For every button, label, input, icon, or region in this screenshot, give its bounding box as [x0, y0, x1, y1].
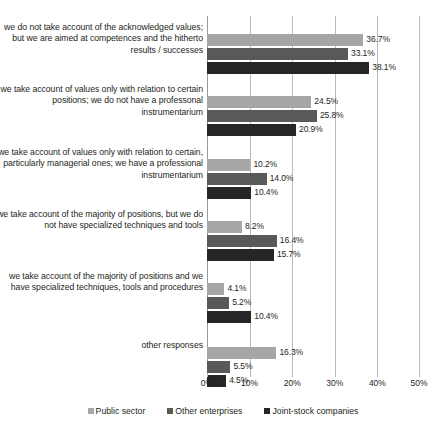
bar-row: 10.2% [207, 159, 420, 171]
bar-value-label: 38.1% [372, 61, 396, 73]
x-tick [335, 373, 336, 377]
legend-label: Public sector [96, 406, 146, 416]
x-tick-label: 40% [369, 378, 386, 388]
x-tick-label: 10% [241, 378, 258, 388]
bar-row: 8.2% [207, 221, 420, 233]
bar-value-label: 33.1% [351, 47, 375, 59]
x-axis: 0%10%20%30%40%50% [207, 373, 420, 393]
bar-value-label: 10.2% [253, 158, 277, 170]
bar[interactable] [207, 48, 348, 60]
bar-group: 4.1%5.2%10.4% [207, 283, 420, 325]
x-tick-label: 50% [410, 378, 427, 388]
bar-value-label: 16.4% [280, 234, 304, 246]
bar-value-label: 24.5% [314, 95, 338, 107]
legend-label: Joint-stock companies [272, 406, 358, 416]
bar-row: 15.7% [207, 249, 420, 261]
bar-row: 10.4% [207, 187, 420, 199]
x-tick-label: 0% [201, 378, 213, 388]
bar[interactable] [207, 110, 317, 122]
bar[interactable] [207, 173, 267, 185]
bar-value-label: 25.8% [320, 109, 344, 121]
bar-value-label: 14.0% [270, 172, 294, 184]
bar-value-label: 36.7% [366, 33, 390, 45]
bar[interactable] [207, 297, 229, 309]
bar-row: 24.5% [207, 96, 420, 108]
x-tick [250, 373, 251, 377]
bar-value-label: 10.4% [254, 186, 278, 198]
bar-group: 8.2%16.4%15.7% [207, 221, 420, 263]
x-tick-label: 20% [284, 378, 301, 388]
category-label-3: we take account of the majority of posit… [0, 209, 203, 232]
category-label-2: we take account of values only with rela… [0, 147, 203, 181]
bar[interactable] [207, 159, 250, 171]
category-label-4: we take account of the majority of posit… [0, 271, 203, 294]
bar[interactable] [207, 34, 363, 46]
legend-item-other-enterprises[interactable]: Other enterprises [167, 406, 242, 416]
category-label-5: other responses [0, 340, 203, 351]
bar[interactable] [207, 235, 277, 247]
legend-swatch-icon [88, 408, 94, 414]
bar[interactable] [207, 62, 369, 74]
bar-chart: we do not take account of the acknowledg… [0, 0, 446, 433]
bar-row: 16.3% [207, 347, 420, 359]
bar-value-label: 5.5% [233, 360, 252, 372]
legend-item-joint-stock-companies[interactable]: Joint-stock companies [264, 406, 358, 416]
bar-value-label: 20.9% [299, 123, 323, 135]
bar-row: 38.1% [207, 62, 420, 74]
bar[interactable] [207, 249, 274, 261]
bar-value-label: 5.2% [232, 296, 251, 308]
legend-swatch-icon [167, 408, 173, 414]
legend-label: Other enterprises [175, 406, 242, 416]
bar-row: 20.9% [207, 124, 420, 136]
x-tick-label: 30% [326, 378, 343, 388]
x-tick [292, 373, 293, 377]
bar[interactable] [207, 187, 251, 199]
x-tick [207, 373, 208, 377]
bar-row: 33.1% [207, 48, 420, 60]
x-tick [377, 373, 378, 377]
bar-row: 5.2% [207, 297, 420, 309]
bar-row: 16.4% [207, 235, 420, 247]
bar-row: 4.1% [207, 283, 420, 295]
legend-swatch-icon [264, 408, 270, 414]
bar-value-label: 8.2% [245, 220, 264, 232]
category-label-1: we take account of values only with rela… [0, 84, 203, 118]
bar[interactable] [207, 96, 311, 108]
bar-group: 10.2%14.0%10.4% [207, 159, 420, 201]
bar-group: 36.7%33.1%38.1% [207, 34, 420, 76]
bar[interactable] [207, 361, 230, 373]
legend-item-public-sector[interactable]: Public sector [88, 406, 146, 416]
bar[interactable] [207, 283, 224, 295]
bar-value-label: 10.4% [254, 310, 278, 322]
bar[interactable] [207, 311, 251, 323]
chart-legend: Public sector Other enterprises Joint-st… [0, 406, 446, 416]
category-label-0: we do not take account of the acknowledg… [0, 22, 203, 56]
bar-value-label: 15.7% [277, 248, 301, 260]
bar[interactable] [207, 124, 296, 136]
bar[interactable] [207, 221, 242, 233]
bar-row: 14.0% [207, 173, 420, 185]
x-tick [419, 373, 420, 377]
bar-row: 36.7% [207, 34, 420, 46]
bar-value-label: 4.1% [227, 282, 246, 294]
bar-row: 10.4% [207, 311, 420, 323]
bar[interactable] [207, 347, 276, 359]
bar-group: 24.5%25.8%20.9% [207, 96, 420, 138]
bar-row: 5.5% [207, 361, 420, 373]
bars-layer: 36.7%33.1%38.1%24.5%25.8%20.9%10.2%14.0%… [207, 16, 420, 373]
bar-row: 25.8% [207, 110, 420, 122]
bar-value-label: 16.3% [279, 346, 303, 358]
